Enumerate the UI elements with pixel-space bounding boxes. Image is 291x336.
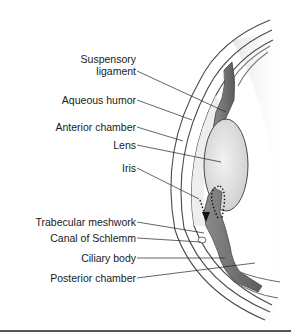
label-posterior-chamber: Posterior chamber bbox=[50, 272, 136, 284]
eye-illustration bbox=[0, 0, 291, 336]
bottom-divider bbox=[0, 330, 291, 332]
eye-anatomy-diagram: SuspensoryligamentAqueous humorAnterior … bbox=[0, 0, 291, 336]
label-aqueous-humor: Aqueous humor bbox=[62, 94, 136, 106]
lower-iris-ciliary bbox=[204, 188, 280, 298]
label-text: Canal of Schlemm bbox=[50, 232, 136, 244]
label-text: Trabecular meshwork bbox=[35, 216, 136, 228]
label-trabecular-meshwork: Trabecular meshwork bbox=[35, 216, 136, 228]
label-ciliary-body: Ciliary body bbox=[81, 252, 136, 264]
label-text: Anterior chamber bbox=[55, 121, 136, 133]
leader-canal-of-schlemm bbox=[137, 238, 201, 242]
label-text: Aqueous humor bbox=[62, 94, 136, 106]
label-anterior-chamber: Anterior chamber bbox=[55, 121, 136, 133]
leader-suspensory-ligament bbox=[137, 71, 226, 112]
label-lens: Lens bbox=[113, 139, 136, 151]
label-text: Iris bbox=[122, 162, 136, 174]
leader-anterior-chamber bbox=[137, 127, 183, 141]
label-text: Suspensory bbox=[81, 53, 136, 65]
label-text: Ciliary body bbox=[81, 252, 136, 264]
label-canal-of-schlemm: Canal of Schlemm bbox=[50, 232, 136, 244]
label-text: Lens bbox=[113, 139, 136, 151]
leader-iris bbox=[137, 168, 199, 199]
label-suspensory-ligament: Suspensoryligament bbox=[81, 53, 136, 77]
label-text: Posterior chamber bbox=[50, 272, 136, 284]
leader-aqueous-humor bbox=[137, 100, 192, 120]
label-text: ligament bbox=[81, 65, 136, 77]
label-iris: Iris bbox=[122, 162, 136, 174]
